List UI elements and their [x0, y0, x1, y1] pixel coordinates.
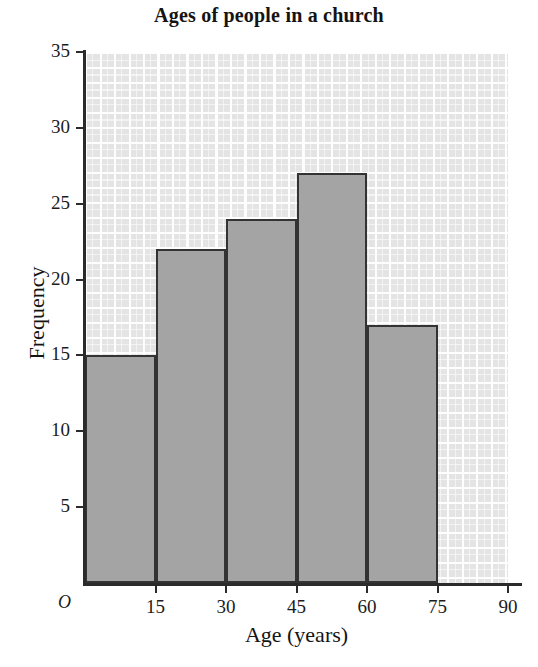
x-tick-45 [296, 584, 298, 593]
x-tick-15 [155, 584, 157, 593]
x-axis-title: Age (years) [85, 622, 508, 648]
y-tick-5 [76, 506, 84, 508]
plot-area [85, 52, 508, 583]
x-tick-label-45: 45 [274, 596, 320, 618]
histogram-chart: Ages of people in a church 5101520253035… [0, 0, 538, 667]
x-tick-label-90: 90 [485, 596, 531, 618]
y-tick-35 [76, 51, 84, 53]
x-axis-line [83, 583, 522, 586]
y-tick-label-30: 30 [30, 116, 70, 138]
x-tick-90 [507, 584, 509, 593]
y-axis-title: Frequency [24, 193, 50, 433]
y-tick-20 [76, 279, 84, 281]
bar-3 [297, 173, 368, 583]
y-tick-25 [76, 203, 84, 205]
chart-title: Ages of people in a church [0, 4, 538, 27]
x-tick-label-75: 75 [415, 596, 461, 618]
bar-1 [156, 249, 227, 583]
x-tick-label-60: 60 [344, 596, 390, 618]
y-tick-label-5: 5 [30, 495, 70, 517]
y-tick-30 [76, 127, 84, 129]
x-tick-75 [437, 584, 439, 593]
origin-label: O [58, 592, 71, 613]
y-tick-label-35: 35 [30, 40, 70, 62]
y-tick-15 [76, 354, 84, 356]
bar-2 [226, 219, 297, 583]
y-tick-10 [76, 430, 84, 432]
x-tick-label-30: 30 [203, 596, 249, 618]
bar-4 [367, 325, 438, 583]
y-axis-line [83, 50, 86, 585]
x-tick-60 [366, 584, 368, 593]
bar-0 [85, 355, 156, 583]
x-tick-label-15: 15 [133, 596, 179, 618]
x-tick-30 [225, 584, 227, 593]
